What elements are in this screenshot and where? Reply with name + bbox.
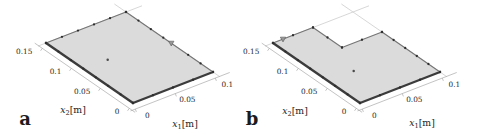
boundary-marker-dot [272, 42, 274, 44]
x1-tick-label: 0.05 [179, 95, 196, 104]
panel-a: 00.050.100.050.10.15 [16, 4, 233, 120]
x1-tick-label: 0.1 [449, 80, 461, 89]
boundary-marker-dot [119, 93, 121, 95]
x1-tick-label: 0.05 [406, 95, 423, 104]
axis-tick [175, 94, 176, 97]
boundary-marker-dot [199, 62, 201, 64]
x2-tick-label: 0 [115, 107, 120, 116]
boundary-marker-dot [399, 86, 401, 88]
figure-container: 00.050.100.050.10.15 00.050.100.050.10.1… [0, 0, 477, 136]
boundary-marker-dot [361, 39, 363, 41]
x2-tick-label: 0.15 [243, 47, 260, 56]
boundary-marker-dot [93, 23, 95, 25]
x1-tick-label: 0.1 [222, 80, 234, 89]
axis-tick [402, 94, 403, 97]
boundary-marker-dot [162, 37, 164, 39]
boundary-marker-dot [322, 76, 324, 78]
boundary-marker-dot [192, 79, 194, 81]
boundary-marker-dot [95, 76, 97, 78]
panel-b-x1-axis-title: x1[m] [409, 117, 435, 130]
boundary-marker-dot [137, 19, 139, 21]
panel-b: 00.050.100.050.10.15 [243, 4, 460, 120]
boundary-marker-dot [132, 102, 134, 104]
boundary-marker-dot [439, 71, 441, 73]
boundary-marker-dot [381, 31, 383, 33]
boundary-marker-dot [77, 29, 79, 31]
x2-tick-label: 0.05 [301, 87, 318, 96]
boundary-marker-dot [309, 68, 311, 70]
boundary-marker-dot [392, 39, 394, 41]
x2-tick-label: 0.05 [74, 87, 91, 96]
plate-figure: 00.050.100.050.10.15 00.050.100.050.10.1… [0, 0, 477, 136]
panel-b-letter: b [246, 108, 259, 129]
axis-tick [362, 109, 363, 112]
axis-tick [355, 108, 357, 110]
interior-marker [106, 58, 109, 61]
boundary-marker-dot [379, 94, 381, 96]
axis-tick [41, 48, 43, 50]
boundary-marker-dot [57, 50, 59, 52]
panel-a-x1-axis-title: x1[m] [172, 118, 198, 131]
axis-tick [297, 68, 299, 70]
axis-tick [128, 108, 130, 110]
boundary-marker-dot [172, 86, 174, 88]
x2-tick-label: 0.1 [277, 67, 289, 76]
boundary-marker-dot [150, 28, 152, 30]
boundary-marker-dot [297, 59, 299, 61]
boundary-marker-dot [419, 79, 421, 81]
panel-a-x2-axis-title: x2[m] [60, 104, 86, 117]
boundary-marker-dot [416, 55, 418, 57]
boundary-marker-dot [45, 42, 47, 44]
panel-b-x2-axis-title: x2[m] [282, 105, 308, 118]
boundary-marker-dot [212, 71, 214, 73]
boundary-marker-dot [107, 85, 109, 87]
axis-tick [442, 78, 443, 81]
boundary-marker-dot [346, 93, 348, 95]
x2-tick-label: 0.1 [50, 67, 62, 76]
x1-tick-label: 0 [145, 111, 150, 120]
axis-tick [268, 48, 270, 50]
axis-tick [326, 88, 328, 90]
x1-tick-label: 0 [372, 111, 377, 120]
boundary-marker-dot [187, 54, 189, 56]
boundary-marker-dot [326, 36, 328, 38]
plate-surface [273, 28, 440, 104]
boundary-marker-dot [82, 68, 84, 70]
axis-tick [99, 88, 101, 90]
axis-tick [70, 68, 72, 70]
boundary-marker-dot [427, 63, 429, 65]
boundary-marker-dot [359, 102, 361, 104]
boundary-marker-dot [312, 26, 314, 28]
interior-marker [352, 70, 355, 73]
x2-tick-label: 0 [342, 107, 347, 116]
x2-tick-label: 0.15 [16, 47, 33, 56]
boundary-marker-dot [284, 50, 286, 52]
plate-surface [46, 12, 213, 103]
boundary-marker-dot [334, 85, 336, 87]
boundary-marker-dot [404, 47, 406, 49]
boundary-marker-dot [70, 59, 72, 61]
boundary-marker-dot [292, 34, 294, 36]
panel-a-letter: a [19, 108, 31, 129]
boundary-marker-dot [61, 36, 63, 38]
boundary-marker-dot [152, 94, 154, 96]
axis-tick [135, 109, 136, 112]
boundary-marker-dot [109, 17, 111, 19]
boundary-marker-dot [341, 46, 343, 48]
boundary-marker-dot [125, 11, 127, 13]
axis-tick [215, 78, 216, 81]
